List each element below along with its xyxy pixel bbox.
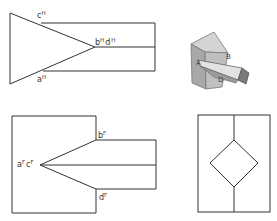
side-view [198, 115, 270, 212]
label-c-h: cH [37, 10, 46, 20]
label-a-h: aH [37, 74, 46, 84]
triangle-upper-edge [10, 13, 95, 47]
label-B: B [226, 53, 231, 61]
label-D: D [218, 76, 223, 84]
triangle-lower-edge [10, 47, 95, 84]
diamond-section [210, 140, 258, 187]
label-A: A [196, 59, 201, 67]
wedge-upper-edge [40, 140, 96, 165]
label-a-f-c-f: aFcF [17, 159, 34, 169]
front-view: bF aFcF dF [12, 116, 156, 213]
pictorial-view: A B D [191, 32, 249, 89]
wedge-lower-edge [40, 165, 96, 189]
top-view: cH bHdH aH [10, 10, 155, 84]
orthographic-drawing: cH bHdH aH A B D bF aFcF [0, 0, 277, 221]
label-b-f: bF [98, 130, 106, 140]
label-b-h-d-h: bHdH [95, 37, 115, 47]
label-d-f: dF [99, 192, 107, 202]
